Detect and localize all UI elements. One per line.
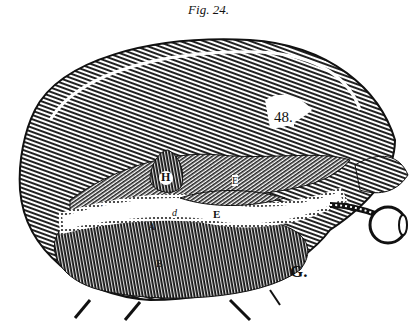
anatomical-engraving	[0, 0, 417, 330]
eyeball-cornea	[399, 215, 407, 235]
vessel-2	[125, 302, 140, 320]
vessel-3	[230, 300, 250, 320]
label-h: H	[161, 170, 170, 185]
label-e-lower: E	[213, 208, 220, 220]
vessel-1	[75, 300, 90, 318]
vessel-4	[270, 290, 280, 305]
label-e-upper: E	[232, 175, 238, 186]
label-a: A	[148, 221, 155, 232]
label-48: 48.	[273, 109, 294, 126]
label-f: F	[102, 203, 108, 214]
right-flap	[355, 156, 408, 192]
label-b: B	[156, 258, 163, 269]
label-d: d	[172, 207, 177, 218]
label-g: G.	[290, 262, 307, 282]
lower-mass	[54, 216, 308, 298]
